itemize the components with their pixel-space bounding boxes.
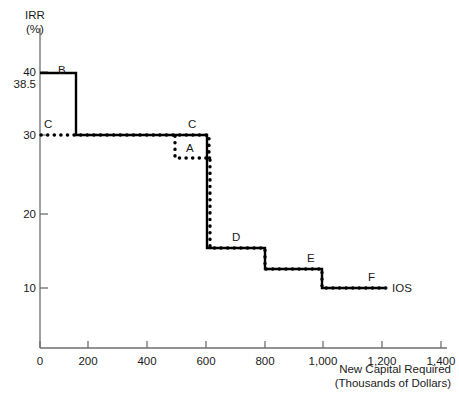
- ios-curve: [40, 73, 386, 288]
- curve-annotations: B C C A D E F IOS: [44, 64, 412, 294]
- y-tick-label: 30: [23, 129, 36, 141]
- annotation-label-B: B: [58, 64, 66, 76]
- y-axis-ticks: [40, 72, 48, 288]
- x-axis-title-line1: New Capital Required: [335, 362, 451, 376]
- irr-investment-opportunity-schedule-chart: 40 38.5 30 20 10 0 200 400 600 800 1,000…: [0, 0, 459, 416]
- y-tick-label: 10: [23, 282, 36, 294]
- x-tick-label: 0: [37, 355, 43, 367]
- x-axis-title: New Capital Required (Thousands of Dolla…: [335, 362, 451, 391]
- annotation-label-D: D: [232, 231, 240, 243]
- x-tick-label: 400: [137, 355, 156, 367]
- x-axis-title-line2: (Thousands of Dollars): [335, 376, 451, 390]
- y-axis-title: IRR (%): [25, 8, 45, 37]
- x-tick-label: 800: [255, 355, 274, 367]
- annotation-label-IOS: IOS: [392, 282, 412, 294]
- chart-plot-area: 40 38.5 30 20 10 0 200 400 600 800 1,000…: [0, 0, 459, 416]
- y-axis-title-line2: (%): [25, 22, 45, 36]
- y-axis-tick-labels: 40 38.5 30 20 10: [14, 66, 36, 294]
- x-tick-label: 600: [196, 355, 215, 367]
- annotation-label-F: F: [368, 271, 375, 283]
- y-tick-label: 38.5: [14, 78, 36, 90]
- y-axis-title-line1: IRR: [25, 8, 45, 22]
- y-tick-label: 20: [23, 208, 36, 220]
- annotation-label-A: A: [186, 142, 194, 154]
- x-axis-ticks: [40, 341, 441, 348]
- x-tick-label: 200: [78, 355, 97, 367]
- x-tick-label: 1,000: [309, 355, 338, 367]
- annotation-label-C-right: C: [188, 118, 196, 130]
- y-tick-label: 40: [23, 66, 36, 78]
- annotation-label-E: E: [307, 252, 315, 264]
- annotation-label-C-left: C: [44, 118, 52, 130]
